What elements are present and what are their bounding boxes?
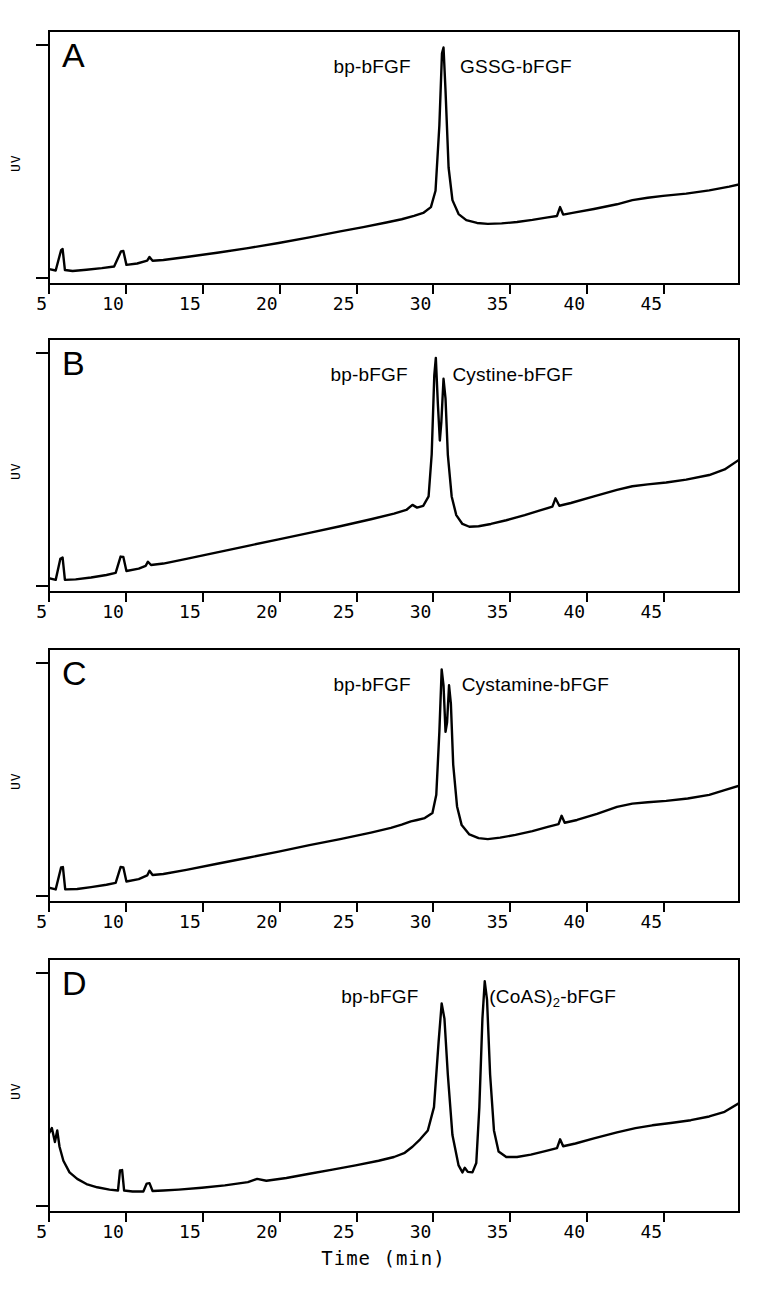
peak-label-text: (CoAS) [489, 986, 553, 1007]
x-axis-tick-label: 25 [333, 293, 356, 314]
x-axis-tick [356, 903, 358, 912]
chromatogram-trace [48, 981, 740, 1191]
plot-area-c: Cbp-bFGFCystamine-bFGF [48, 648, 740, 903]
x-axis-tick-label: 40 [564, 1221, 587, 1242]
y-axis-label: UV [8, 462, 23, 480]
x-axis-tick [432, 285, 434, 294]
x-axis-tick-label: 15 [179, 1221, 202, 1242]
panel-letter-a: A [62, 38, 85, 72]
x-axis-tick-label: 45 [640, 293, 663, 314]
x-axis-d: 51015202530354045 [48, 1213, 740, 1247]
panel-letter-c: C [62, 656, 87, 690]
x-axis-tick-label: 15 [179, 293, 202, 314]
peak-label: bp-bFGF [333, 674, 410, 696]
x-axis-tick [48, 285, 50, 294]
x-axis-tick-label: 20 [256, 601, 279, 622]
plot-area-b: Bbp-bFGFCystine-bFGF [48, 338, 740, 593]
x-axis-a: 51015202530354045 [48, 285, 740, 319]
chromatogram-trace [48, 358, 740, 580]
x-axis-tick [279, 593, 281, 602]
peak-label: bp-bFGF [333, 56, 410, 78]
x-axis-tick [663, 903, 665, 912]
peak-label: GSSG-bFGF [460, 56, 572, 78]
x-axis-b: 51015202530354045 [48, 593, 740, 627]
x-axis-tick-label: 30 [410, 293, 433, 314]
x-axis-title: Time (min) [0, 1247, 767, 1269]
x-axis-tick [509, 903, 511, 912]
x-axis-tick [356, 593, 358, 602]
x-axis-tick-label: 25 [333, 1221, 356, 1242]
y-axis-tick [36, 662, 48, 664]
peak-label: (CoAS)2-bFGF [489, 986, 616, 1010]
x-axis-tick-label: 10 [102, 601, 125, 622]
figure-chromatograms: Abp-bFGFGSSG-bFGFUV51015202530354045Bbp-… [0, 0, 767, 1301]
x-axis-tick [48, 903, 50, 912]
x-axis-tick-label: 30 [410, 1221, 433, 1242]
plot-area-d: Dbp-bFGF(CoAS)2-bFGF [48, 958, 740, 1213]
x-axis-tick [125, 903, 127, 912]
x-axis-tick-label: 15 [179, 601, 202, 622]
x-axis-tick-label: 5 [36, 1221, 48, 1242]
x-axis-tick-label: 35 [487, 1221, 510, 1242]
x-axis-tick [663, 1213, 665, 1222]
x-axis-tick [202, 903, 204, 912]
y-axis-label: UV [8, 1082, 23, 1100]
peak-label-suffix: -bFGF [560, 986, 616, 1007]
chromatogram-trace [48, 669, 740, 889]
x-axis-tick [125, 285, 127, 294]
panel-letter-d: D [62, 966, 87, 1000]
peak-label: bp-bFGF [341, 986, 418, 1008]
x-axis-tick-label: 10 [102, 911, 125, 932]
peak-label: bp-bFGF [330, 364, 407, 386]
y-axis-tick [36, 44, 48, 46]
x-axis-tick-label: 45 [640, 911, 663, 932]
x-axis-tick [432, 1213, 434, 1222]
y-axis-label: UV [8, 772, 23, 790]
x-axis-tick [356, 285, 358, 294]
y-axis-tick [36, 1205, 48, 1207]
x-axis-tick-label: 25 [333, 601, 356, 622]
x-axis-tick-label: 25 [333, 911, 356, 932]
x-axis-tick-label: 40 [564, 293, 587, 314]
x-axis-tick-label: 20 [256, 911, 279, 932]
x-axis-tick-label: 5 [36, 911, 48, 932]
x-axis-tick [279, 285, 281, 294]
x-axis-tick-label: 40 [564, 911, 587, 932]
peak-label: Cystine-bFGF [452, 364, 573, 386]
x-axis-tick-label: 35 [487, 293, 510, 314]
y-axis-tick [36, 972, 48, 974]
x-axis-tick [663, 593, 665, 602]
x-axis-tick [279, 903, 281, 912]
x-axis-tick [586, 593, 588, 602]
y-axis-tick [36, 277, 48, 279]
y-axis-tick [36, 585, 48, 587]
x-axis-tick [586, 1213, 588, 1222]
x-axis-tick [509, 1213, 511, 1222]
x-axis-tick [509, 285, 511, 294]
x-axis-tick-label: 30 [410, 601, 433, 622]
y-axis-tick [36, 352, 48, 354]
x-axis-tick [586, 903, 588, 912]
x-axis-tick [48, 593, 50, 602]
x-axis-tick [279, 1213, 281, 1222]
x-axis-tick [356, 1213, 358, 1222]
panel-letter-b: B [62, 346, 85, 380]
x-axis-tick-label: 45 [640, 601, 663, 622]
x-axis-tick-label: 15 [179, 911, 202, 932]
x-axis-tick [202, 593, 204, 602]
y-axis-tick [36, 895, 48, 897]
x-axis-tick [48, 1213, 50, 1222]
x-axis-tick-label: 35 [487, 601, 510, 622]
x-axis-tick-label: 5 [36, 293, 48, 314]
peak-label: Cystamine-bFGF [462, 674, 609, 696]
x-axis-tick-label: 40 [564, 601, 587, 622]
x-axis-tick [432, 593, 434, 602]
x-axis-tick-label: 5 [36, 601, 48, 622]
x-axis-tick [509, 593, 511, 602]
x-axis-tick [432, 903, 434, 912]
x-axis-tick [586, 285, 588, 294]
x-axis-tick [202, 285, 204, 294]
x-axis-tick [125, 593, 127, 602]
x-axis-tick-label: 10 [102, 1221, 125, 1242]
chromatogram-trace [48, 48, 740, 271]
